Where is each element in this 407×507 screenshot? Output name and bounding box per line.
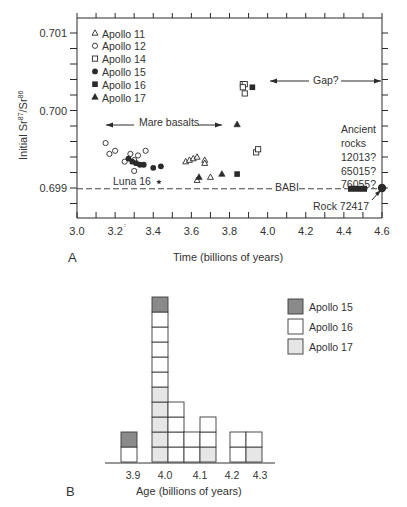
x-tick-label: 3.2	[107, 225, 122, 237]
x-axis-tick-labels: 3.94.04.14.24.3	[126, 469, 268, 481]
histogram-cell-apollo-16	[152, 342, 168, 357]
x-tick-label: 4.3	[253, 469, 268, 481]
x-tick-label: 3.8	[222, 225, 237, 237]
legend-swatch	[288, 339, 303, 354]
panel-b-label: B	[66, 484, 75, 499]
histogram-cell-apollo-17	[152, 447, 168, 462]
histogram-bars	[121, 297, 262, 462]
legend-item: Apollo 17	[102, 92, 146, 104]
y-tick-label: 0.700	[39, 105, 67, 117]
histogram-cell-apollo-16	[246, 432, 262, 447]
histogram-cell-apollo-16	[200, 417, 216, 432]
x-tick-label: 4.2	[298, 225, 313, 237]
legend: Apollo 15Apollo 16Apollo 17	[288, 299, 353, 354]
sample-65015-label: 65015?	[341, 165, 376, 177]
histogram-cell-apollo-17	[152, 402, 168, 417]
histogram-cell-apollo-15	[152, 297, 168, 312]
histogram-cell-apollo-17	[246, 447, 262, 462]
rock-72417-label: Rock 72417	[313, 200, 369, 212]
panel-a-label: A	[68, 250, 77, 265]
legend-item: Apollo 12	[102, 40, 146, 52]
series-apollo-15	[126, 156, 164, 171]
histogram-cell-apollo-16	[152, 312, 168, 327]
series-apollo-17	[196, 121, 241, 179]
x-axis-label: Age (billions of years)	[136, 485, 242, 497]
x-tick-label: 3.9	[126, 469, 141, 481]
rock-72417-point	[378, 184, 386, 192]
x-tick-label: 3.6	[184, 225, 199, 237]
histogram-cell-apollo-16	[200, 432, 216, 447]
histogram-cell-apollo-16	[184, 432, 200, 447]
ancient-rocks-label: rocks	[341, 137, 366, 149]
x-tick-label: 4.6	[374, 225, 389, 237]
panel-b-histogram: 3.94.04.14.24.3 Apollo 15Apollo 16Apollo…	[66, 297, 353, 499]
histogram-cell-apollo-16	[168, 417, 184, 432]
x-tick-label: 4.0	[158, 469, 173, 481]
series-apollo-14	[240, 82, 260, 155]
histogram-cell-apollo-16	[152, 372, 168, 387]
x-tick-label: 4.1	[193, 469, 208, 481]
mare-basalts-label: Mare basalts	[139, 116, 199, 128]
ancient-rocks-label: Ancient	[341, 123, 376, 135]
x-tick-label: 3.0	[69, 225, 84, 237]
legend-item: Apollo 15	[102, 66, 146, 78]
legend-item: Apollo 16	[309, 321, 353, 333]
y-tick-label: 0.701	[39, 27, 67, 39]
luna-16-star-icon	[156, 179, 161, 184]
histogram-cell-apollo-16	[230, 447, 246, 462]
histogram-cell-apollo-16	[184, 447, 200, 462]
legend-item: Apollo 14	[102, 53, 146, 65]
x-tick-label: 3.4	[146, 225, 161, 237]
series-apollo-16	[234, 84, 255, 176]
histogram-cell-apollo-17	[200, 447, 216, 462]
histogram-cell-apollo-17	[152, 387, 168, 402]
gap-label: Gap?	[313, 74, 339, 86]
ancient-rocks-bar	[348, 186, 367, 192]
legend-swatch	[288, 299, 303, 314]
histogram-cell-apollo-16	[168, 402, 184, 417]
x-tick-label: 4.2	[225, 469, 240, 481]
x-tick-label: 4.0	[260, 225, 275, 237]
sample-12013-label: 12013?	[341, 151, 376, 163]
histogram-cell-apollo-16	[121, 447, 137, 462]
histogram-cell-apollo-16	[168, 447, 184, 462]
legend-item: Apollo 11	[102, 28, 145, 40]
histogram-cell-apollo-16	[152, 327, 168, 342]
series-rock-72417	[378, 184, 386, 192]
x-tick-label: 4.4	[336, 225, 351, 237]
legend-item: Apollo 17	[309, 341, 353, 353]
histogram-cell-apollo-16	[152, 357, 168, 372]
x-axis-label: Time (billions of years)	[173, 251, 283, 263]
histogram-cell-apollo-17	[152, 417, 168, 432]
histogram-cell-apollo-17	[152, 432, 168, 447]
histogram-cell-apollo-16	[168, 432, 184, 447]
legend-item: Apollo 15	[309, 301, 353, 313]
y-tick-label: 0.699	[39, 182, 67, 194]
legend: Apollo 11Apollo 12Apollo 14Apollo 15Apol…	[92, 28, 146, 104]
histogram-cell-apollo-15	[121, 432, 137, 447]
legend-item: Apollo 16	[102, 79, 146, 91]
figure: 3.03.23.43.63.84.04.24.44.60.6990.7000.7…	[0, 0, 407, 507]
histogram-cell-apollo-16	[230, 432, 246, 447]
panel-a-scatter-plot: 3.03.23.43.63.84.04.24.44.60.6990.7000.7…	[17, 13, 390, 265]
y-axis-label: Initial Sr87/Sr86	[17, 90, 29, 160]
series-apollo-12	[103, 140, 148, 173]
legend-swatch	[288, 319, 303, 334]
luna-16-label: Luna 16	[113, 175, 151, 187]
babi-label: BABI	[275, 181, 299, 193]
